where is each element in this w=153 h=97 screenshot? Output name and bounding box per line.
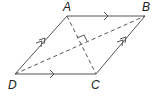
arrow-mark-da-1	[36, 41, 42, 47]
side-cb	[96, 16, 145, 74]
rhombus-diagram	[0, 0, 153, 97]
vertex-label-c: C	[91, 79, 100, 91]
vertex-label-d: D	[8, 79, 17, 91]
vertex-label-b: B	[142, 1, 150, 13]
vertex-label-a: A	[63, 1, 71, 13]
diagonal-ac	[67, 16, 96, 74]
diagonal-db	[15, 16, 145, 74]
